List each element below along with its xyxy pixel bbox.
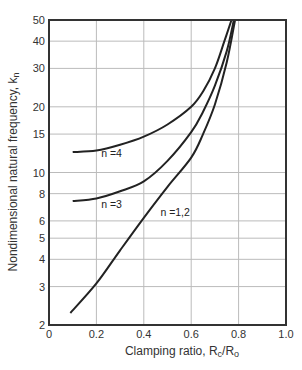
y-tick-label: 50 [33,14,45,26]
y-tick-label: 30 [33,62,45,74]
y-tick-label: 40 [33,35,45,47]
x-tick-label: 0.2 [89,328,104,340]
curve-labels: n =4n =3n =1,2 [101,147,190,218]
y-tick-label: 3 [39,281,45,293]
y-tick-label: 8 [39,188,45,200]
x-tick-label: 1.0 [278,328,293,340]
y-tick-label: 5 [39,232,45,244]
grid [49,20,286,325]
x-tick-label: 0 [46,328,52,340]
x-tick-label: 0.8 [231,328,246,340]
y-tick-label: 20 [33,101,45,113]
y-tick-label: 4 [39,253,45,265]
x-tick-labels: 00.20.40.60.81.0 [46,328,294,340]
chart: 00.20.40.60.81.0 234568101520304050 n =4… [0,0,302,370]
x-axis-label: Clamping ratio, Rc/Ro [125,344,239,359]
curve-n-1-2 [70,20,235,313]
curve-label: n =1,2 [160,206,190,218]
x-tick-label: 0.4 [136,328,151,340]
x-tick-label: 0.6 [184,328,199,340]
curves [70,20,235,313]
curve-label: n =3 [101,198,122,210]
y-axis-label: Nondimensional natural frequency, kn [6,73,21,272]
y-tick-label: 10 [33,167,45,179]
curve-label: n =4 [101,147,122,159]
y-tick-labels: 234568101520304050 [33,14,45,331]
y-tick-label: 6 [39,215,45,227]
y-tick-label: 2 [39,319,45,331]
y-tick-label: 15 [33,128,45,140]
